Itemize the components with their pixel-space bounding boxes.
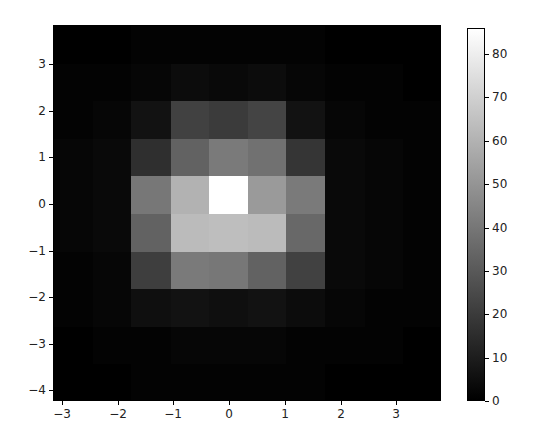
heatmap-cell xyxy=(325,214,365,252)
heatmap-cell xyxy=(248,327,287,365)
y-tick-label: −3 xyxy=(16,337,46,351)
heatmap-cell xyxy=(365,101,404,139)
colorbar-tick-label: 60 xyxy=(492,134,507,148)
x-tick-mark xyxy=(229,401,230,405)
x-tick-label: −2 xyxy=(103,407,133,421)
y-tick-mark xyxy=(49,64,53,65)
colorbar-tick-mark xyxy=(485,314,489,315)
x-tick-mark xyxy=(396,401,397,405)
colorbar-tick-label: 80 xyxy=(492,47,507,61)
colorbar-tick-label: 40 xyxy=(492,221,507,235)
colorbar-tick-label: 0 xyxy=(492,394,500,408)
heatmap-cell xyxy=(403,252,441,290)
y-tick-label: −1 xyxy=(16,244,46,258)
heatmap-cell xyxy=(286,214,326,252)
heatmap-cell xyxy=(93,176,132,214)
colorbar-tick-label: 20 xyxy=(492,307,507,321)
heatmap-cell xyxy=(403,176,441,214)
heatmap-cell xyxy=(248,101,287,139)
heatmap-cell xyxy=(93,289,132,327)
heatmap-cell xyxy=(286,101,326,139)
heatmap-cell xyxy=(171,364,210,401)
heatmap-cell xyxy=(209,214,249,252)
heatmap-cell xyxy=(325,64,365,102)
heatmap-cell xyxy=(325,101,365,139)
x-tick-mark xyxy=(62,401,63,405)
heatmap-cell xyxy=(209,252,249,290)
heatmap-cell xyxy=(325,26,365,64)
heatmap-cell xyxy=(93,252,132,290)
colorbar-tick-mark xyxy=(485,141,489,142)
heatmap-cell xyxy=(365,364,404,401)
heatmap-cell xyxy=(54,64,94,102)
heatmap-cell xyxy=(286,364,326,401)
heatmap-cell xyxy=(325,176,365,214)
heatmap-cell xyxy=(286,26,326,64)
heatmap-cell xyxy=(131,364,171,401)
figure: 3210−1−2−3−4 −3−2−10123 0102030405060708… xyxy=(0,0,533,443)
heatmap-cell xyxy=(209,364,249,401)
heatmap-cell xyxy=(171,64,210,102)
heatmap-cell xyxy=(325,289,365,327)
x-tick-label: 0 xyxy=(214,407,244,421)
heatmap-cell xyxy=(403,214,441,252)
heatmap-cell xyxy=(54,101,94,139)
colorbar-tick-label: 70 xyxy=(492,90,507,104)
heatmap-cell xyxy=(54,289,94,327)
heatmap-cell xyxy=(286,327,326,365)
y-tick-label: 0 xyxy=(16,197,46,211)
heatmap-cell xyxy=(54,364,94,401)
heatmap-plot-area xyxy=(53,25,441,401)
heatmap-cell xyxy=(54,214,94,252)
heatmap-cell xyxy=(248,364,287,401)
heatmap-cell xyxy=(248,139,287,177)
heatmap-cell xyxy=(248,64,287,102)
heatmap-cell xyxy=(286,289,326,327)
y-tick-mark xyxy=(49,297,53,298)
colorbar-tick-mark xyxy=(485,97,489,98)
heatmap-cell xyxy=(131,252,171,290)
heatmap-cell xyxy=(365,64,404,102)
heatmap-cell xyxy=(54,139,94,177)
heatmap-cell xyxy=(286,252,326,290)
y-tick-mark xyxy=(49,390,53,391)
heatmap-cell xyxy=(403,327,441,365)
x-tick-label: −3 xyxy=(47,407,77,421)
heatmap-cell xyxy=(403,101,441,139)
y-tick-label: −4 xyxy=(16,383,46,397)
heatmap-cell xyxy=(171,101,210,139)
heatmap-cell xyxy=(93,327,132,365)
heatmap-cell xyxy=(93,214,132,252)
y-tick-mark xyxy=(49,204,53,205)
heatmap-cell xyxy=(365,327,404,365)
colorbar-tick-mark xyxy=(485,54,489,55)
heatmap-cell xyxy=(209,26,249,64)
y-tick-label: 2 xyxy=(16,104,46,118)
heatmap-cell xyxy=(286,176,326,214)
x-tick-mark xyxy=(341,401,342,405)
heatmap-cell xyxy=(248,289,287,327)
heatmap-cell xyxy=(209,327,249,365)
heatmap-cell xyxy=(365,214,404,252)
heatmap-cell xyxy=(54,252,94,290)
heatmap-cell xyxy=(365,139,404,177)
heatmap-cell xyxy=(131,64,171,102)
heatmap-cell xyxy=(248,26,287,64)
heatmap-cell xyxy=(248,214,287,252)
heatmap-cell xyxy=(209,176,249,214)
heatmap-cell xyxy=(131,101,171,139)
y-tick-label: 1 xyxy=(16,150,46,164)
x-tick-label: 1 xyxy=(270,407,300,421)
heatmap-cell xyxy=(403,364,441,401)
y-tick-label: −2 xyxy=(16,290,46,304)
heatmap-cell xyxy=(209,101,249,139)
x-tick-mark xyxy=(118,401,119,405)
y-tick-mark xyxy=(49,251,53,252)
heatmap-cell xyxy=(131,176,171,214)
heatmap-cell xyxy=(248,252,287,290)
colorbar-tick-label: 50 xyxy=(492,177,507,191)
colorbar-tick-mark xyxy=(485,228,489,229)
heatmap-cell xyxy=(365,176,404,214)
heatmap-cell xyxy=(325,252,365,290)
heatmap-cell xyxy=(131,214,171,252)
